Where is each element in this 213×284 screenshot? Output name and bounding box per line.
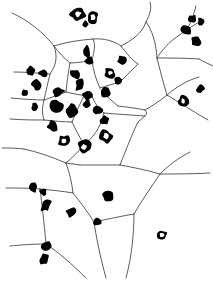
nucleus-marker <box>22 90 28 97</box>
voronoi-tessellation-figure <box>0 0 213 284</box>
figure-container <box>0 0 213 284</box>
nucleus-body <box>22 90 28 97</box>
